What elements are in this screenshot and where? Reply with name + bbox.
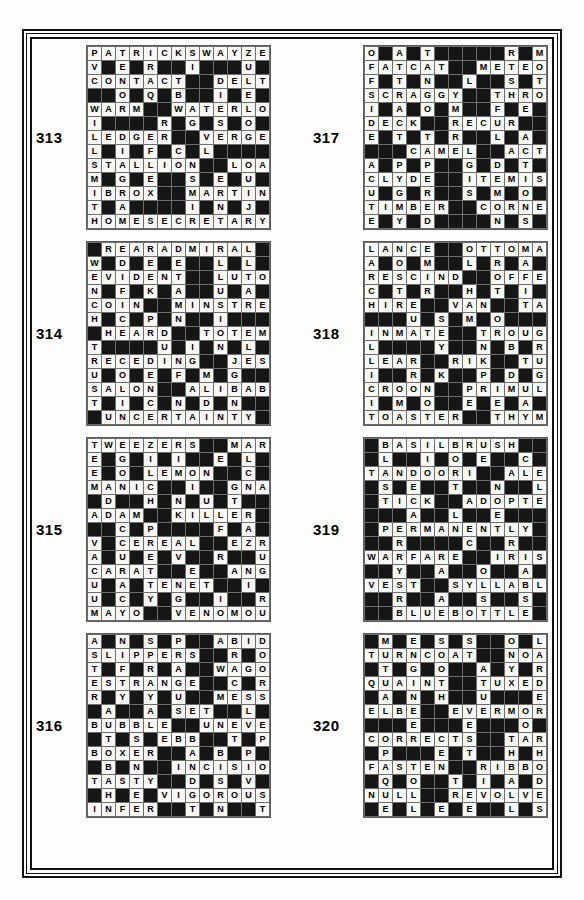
grid-cell-blank — [533, 313, 546, 326]
grid-cell-blank — [435, 285, 448, 298]
grid-cell-letter: B — [102, 187, 115, 200]
grid-cell-letter: E — [116, 243, 129, 256]
grid-cell-blank — [130, 341, 143, 354]
grid-cell-blank — [365, 607, 378, 620]
puzzle-320: 320MESSOLTURNCOATNOATGOAYRQUAINTTUXEDANH… — [313, 633, 548, 818]
grid-cell-letter: T — [477, 607, 490, 620]
grid-cell-letter: T — [172, 411, 185, 424]
grid-cell-blank — [449, 495, 462, 508]
grid-cell-letter: O — [102, 215, 115, 228]
grid-cell-blank — [102, 313, 115, 326]
grid-cell-letter: M — [256, 327, 269, 340]
grid-cell-blank — [172, 719, 185, 732]
grid-cell-letter: I — [365, 397, 378, 410]
grid-cell-blank — [214, 649, 227, 662]
grid-cell-blank — [421, 663, 434, 676]
grid-cell-letter: R — [214, 243, 227, 256]
grid-cell-blank — [449, 75, 462, 88]
grid-cell-blank — [477, 313, 490, 326]
grid-cell-letter: L — [200, 509, 213, 522]
grid-cell-blank — [102, 61, 115, 74]
grid-cell-blank — [449, 565, 462, 578]
grid-cell-letter: E — [158, 649, 171, 662]
grid-cell-blank — [519, 75, 532, 88]
grid-cell-blank — [144, 299, 157, 312]
grid-cell-letter: Y — [228, 47, 241, 60]
grid-cell-letter: T — [130, 75, 143, 88]
grid-cell-blank — [393, 481, 406, 494]
grid-cell-letter: M — [393, 201, 406, 214]
grid-cell-letter: N — [130, 299, 143, 312]
grid-cell-letter: P — [88, 47, 101, 60]
grid-cell-blank — [477, 551, 490, 564]
grid-cell-blank — [379, 593, 392, 606]
grid-cell-letter: G — [256, 565, 269, 578]
grid-cell-blank — [130, 453, 143, 466]
grid-cell-blank — [379, 131, 392, 144]
grid-cell-letter: C — [116, 355, 129, 368]
grid-cell-letter: U — [365, 187, 378, 200]
grid-cell-letter: R — [242, 509, 255, 522]
grid-cell-blank — [158, 285, 171, 298]
grid-cell-letter: E — [116, 327, 129, 340]
grid-cell-blank — [228, 89, 241, 102]
grid-cell-blank — [449, 691, 462, 704]
grid-cell-letter: T — [449, 481, 462, 494]
grid-cell-blank — [130, 523, 143, 536]
grid-cell-blank — [379, 537, 392, 550]
grid-cell-blank — [158, 313, 171, 326]
grid-cell-blank — [130, 551, 143, 564]
grid-cell-blank — [242, 551, 255, 564]
grid-cell-blank — [365, 145, 378, 158]
grid-cell-blank — [435, 173, 448, 186]
grid-cell-blank — [172, 131, 185, 144]
grid-cell-blank — [533, 509, 546, 522]
grid-cell-letter: I — [186, 61, 199, 74]
grid-cell-letter: T — [200, 705, 213, 718]
grid-cell-letter: N — [144, 383, 157, 396]
grid-cell-blank — [505, 103, 518, 116]
grid-cell-letter: S — [393, 271, 406, 284]
grid-cell-blank — [449, 341, 462, 354]
grid-cell-letter: E — [407, 705, 420, 718]
grid-cell-letter: U — [533, 355, 546, 368]
grid-cell-blank — [435, 215, 448, 228]
grid-cell-letter: T — [519, 159, 532, 172]
grid-cell-blank — [463, 481, 476, 494]
grid-cell-letter: T — [130, 775, 143, 788]
grid-cell-blank — [421, 719, 434, 732]
grid-cell-letter: Q — [144, 89, 157, 102]
grid-cell-blank — [449, 593, 462, 606]
grid-cell-letter: S — [186, 173, 199, 186]
grid-cell-blank — [186, 369, 199, 382]
grid-cell-letter: I — [116, 397, 129, 410]
grid-cell-letter: M — [533, 47, 546, 60]
grid-cell-letter: A — [144, 75, 157, 88]
grid-cell-letter: M — [477, 61, 490, 74]
grid-cell-letter: U — [172, 691, 185, 704]
grid-cell-letter: D — [102, 509, 115, 522]
grid-cell-letter: T — [365, 201, 378, 214]
grid-cell-blank — [102, 341, 115, 354]
grid-cell-letter: C — [116, 537, 129, 550]
grid-cell-letter: Z — [242, 47, 255, 60]
grid-cell-blank — [533, 285, 546, 298]
grid-cell-blank — [421, 299, 434, 312]
grid-cell-letter: D — [365, 117, 378, 130]
puzzle-row: 313PATRICKSWAYZEVERIUCONTACTDELTOQBIEWAR… — [36, 45, 548, 230]
grid-cell-letter: B — [172, 733, 185, 746]
grid-cell-letter: E — [379, 579, 392, 592]
grid-cell-blank — [533, 187, 546, 200]
grid-cell-letter: L — [407, 803, 420, 816]
grid-cell-letter: N — [421, 75, 434, 88]
grid-cell-letter: S — [491, 439, 504, 452]
grid-cell-letter: L — [533, 481, 546, 494]
grid-cell-blank — [519, 509, 532, 522]
grid-cell-blank — [186, 663, 199, 676]
grid-cell-blank — [379, 607, 392, 620]
grid-cell-blank — [435, 117, 448, 130]
grid-cell-letter: S — [505, 75, 518, 88]
grid-cell-letter: E — [130, 215, 143, 228]
grid-cell-letter: A — [116, 201, 129, 214]
grid-cell-blank — [491, 635, 504, 648]
